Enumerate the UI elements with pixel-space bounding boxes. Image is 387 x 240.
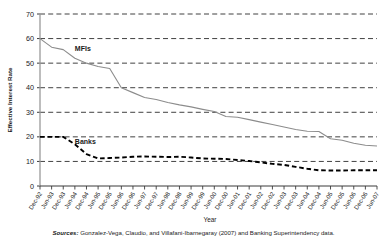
- y-tick-label: 10: [26, 157, 34, 166]
- y-tick-label: 40: [26, 83, 34, 92]
- source-note-text: Gonzalez-Vega, Claudio, and Villafani-Ib…: [79, 229, 335, 236]
- y-tick-label: 50: [26, 59, 34, 68]
- y-tick-label: 20: [26, 132, 34, 141]
- source-note-prefix: Sources:: [52, 229, 78, 236]
- source-note: Sources: Gonzalez-Vega, Claudio, and Vil…: [0, 229, 387, 237]
- annotation-banks: Banks: [75, 138, 96, 145]
- y-tick-label: 60: [26, 34, 34, 43]
- x-axis-tick-marks: [40, 186, 377, 190]
- y-tick-label: 30: [26, 108, 34, 117]
- x-axis-tick-labels: Dec-92Jun-93Dec-93Jun-94Dec-94Jun-95Dec-…: [27, 190, 381, 211]
- chart-figure: Effective Interest Rate 010203040506070 …: [0, 0, 387, 240]
- annotation-mfis: MFIs: [75, 45, 91, 52]
- effective-interest-rate-line-chart: Effective Interest Rate 010203040506070 …: [0, 0, 387, 240]
- y-axis-title: Effective Interest Rate: [6, 67, 13, 133]
- series-line-mfis: [40, 39, 377, 146]
- y-tick-label: 70: [26, 10, 34, 19]
- y-axis-tick-labels: 010203040506070: [26, 10, 34, 191]
- data-series: [40, 39, 377, 171]
- x-tick-label: Jun-07: [364, 190, 380, 210]
- y-tick-label: 0: [30, 182, 34, 191]
- x-axis-title: Year: [204, 216, 218, 223]
